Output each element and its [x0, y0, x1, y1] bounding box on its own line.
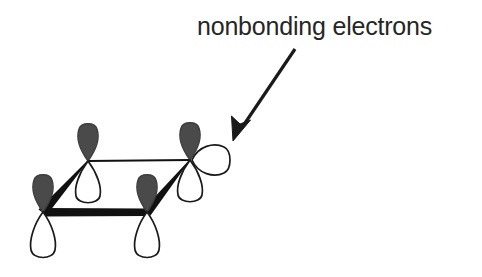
figure-background: [0, 0, 482, 277]
molecular-orbital-figure: [0, 0, 482, 277]
annotation-label: nonbonding electrons: [197, 12, 432, 41]
ring-edge-back: [88, 160, 190, 161]
ring-edge-front-wedge: [43, 208, 147, 217]
